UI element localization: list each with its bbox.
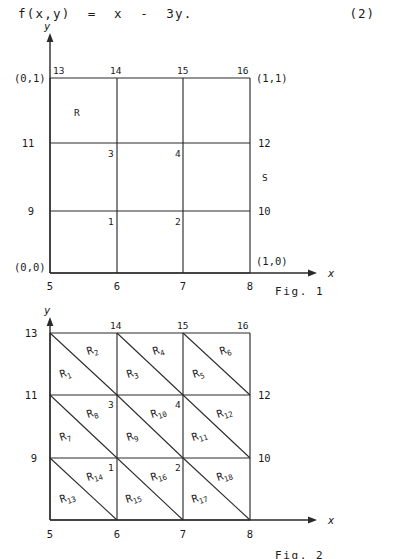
figure2-xtick-8: 8 [247,528,253,540]
figure1-node-11-left: 11 [22,137,35,149]
svg-text:R8: R8 [85,405,100,423]
figure1-node-1: 1 [108,216,114,227]
svg-text:R18: R18 [215,467,235,486]
triangle-subscript: 11 [198,432,209,443]
svg-text:R9: R9 [125,428,140,446]
triangle-subscript: 18 [223,472,235,483]
figure2-x-axis-label: x [327,514,335,526]
figure2-triangle-label: R16 [149,467,169,486]
figure2-y-axis-label: y [43,304,51,316]
triangle-subscript: 15 [132,494,143,505]
figure2-triangle-label: R8 [85,405,100,423]
figure1-node-4: 4 [175,148,181,159]
triangle-subscript: 16 [157,472,169,483]
figure2-triangle-label: R6 [218,342,233,360]
triangle-subscript: 10 [157,409,169,420]
svg-text:R11: R11 [190,427,209,446]
figure2-node-16-top: 16 [237,320,249,331]
figure2-node-1: 1 [108,462,114,473]
svg-text:R14: R14 [85,467,105,486]
triangle-subscript: 3 [133,371,140,381]
triangle-subscript: 14 [93,472,105,483]
svg-text:R12: R12 [215,404,234,423]
svg-text:R4: R4 [151,342,166,360]
figure1-node-3: 3 [108,148,114,159]
figure2-triangle-label: R9 [125,428,140,446]
figure1-node-10-right: 10 [258,205,271,217]
figure1-corner-top-left: (0,1) [14,72,46,84]
figure1-region-label-R: R [74,107,80,118]
svg-text:R16: R16 [149,467,169,486]
figure1-xtick-6: 6 [114,280,120,292]
svg-text:R13: R13 [58,489,77,508]
figure2-caption: Fig. 2 [275,549,324,559]
figure2-node-14-top: 14 [110,320,122,331]
triangle-subscript: 13 [66,494,77,505]
figure2-node-3: 3 [108,399,114,410]
figure2-xtick-5: 5 [47,528,53,540]
triangle-subscript: 8 [93,411,101,421]
triangle-subscript: 4 [159,348,167,358]
svg-text:R5: R5 [191,365,206,383]
triangle-subscript: 1 [66,371,73,381]
svg-text:R3: R3 [125,365,140,383]
figure1-node-15-top: 15 [177,65,188,76]
figure2-node-11-left: 11 [25,389,38,401]
figure1-xtick-7: 7 [180,280,186,292]
figure1-xtick-8: 8 [247,280,253,292]
figure2-triangle-label: R7 [58,428,73,446]
figure1-corner-bottom-left: (0,0) [14,261,46,273]
figure1-node-12-right: 12 [258,137,271,149]
triangle-subscript: 2 [93,348,100,358]
triangle-subscript: 7 [66,434,73,444]
svg-text:R2: R2 [85,342,100,360]
figure2-diagonals [50,333,250,520]
svg-text:R10: R10 [149,404,169,423]
figure1-y-axis-label: y [43,20,51,32]
figure2-triangle-label: R3 [125,365,140,383]
figure2-triangle-label: R1 [58,365,73,383]
triangle-subscript: 6 [226,348,234,358]
figure1-node-9-left: 9 [28,205,34,217]
figure2-node-9-left: 9 [31,452,37,464]
figure2-node-15-top: 15 [177,320,188,331]
svg-text:R15: R15 [124,489,143,508]
figure1-xtick-5: 5 [47,280,53,292]
figure1-grid-vertical [50,78,250,273]
triangle-subscript: 9 [133,434,140,444]
figure2-triangle-label: R5 [191,365,206,383]
figure1-corner-top-right: (1,1) [256,72,288,84]
figure2-xtick-7: 7 [180,528,186,540]
figure1-node-14-top: 14 [110,65,122,76]
figure2-node-2: 2 [175,462,181,473]
figure2-triangle-label: R12 [215,404,234,423]
figure2-triangle-label: R2 [85,342,100,360]
figure2-xtick-6: 6 [114,528,120,540]
figure1-node-13-top: 13 [53,65,64,76]
figure1-x-axis-label: x [327,267,335,279]
figure2-node-10-right: 10 [258,452,271,464]
svg-text:R6: R6 [218,342,233,360]
figure1-node-16-top: 16 [237,65,249,76]
figure2-triangle-label: R13 [58,489,77,508]
figure1-grid-horizontal [50,78,250,273]
figure2-triangle-label: R14 [85,467,105,486]
figure-2: y x 13 11 9 12 10 14 15 16 3 [0,300,393,559]
triangle-subscript: 17 [198,494,209,505]
figure2-node-4: 4 [175,399,181,410]
svg-text:R17: R17 [190,489,209,508]
figure-1: y x 13 14 15 16 11 9 12 10 S R 3 4 1 2 (… [0,0,393,300]
figure2-triangle-label: R18 [215,467,235,486]
triangle-subscript: 12 [223,409,234,420]
figure2-triangle-label: R10 [149,404,169,423]
triangle-subscript: 5 [199,371,206,381]
svg-text:R1: R1 [58,365,73,383]
figure2-triangle-label: R4 [151,342,166,360]
figure1-corner-bottom-right: (1,0) [256,255,288,267]
figure1-boundary-label-S: S [262,172,268,183]
figure2-node-13-left: 13 [25,327,38,339]
figure1-node-2: 2 [175,216,181,227]
figure1-caption: Fig. 1 [275,285,324,298]
figure2-node-12-right: 12 [258,389,271,401]
svg-text:R7: R7 [58,428,73,446]
